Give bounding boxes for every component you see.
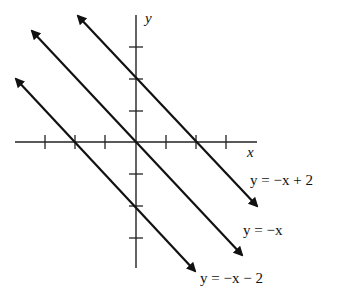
y-axis-label: y bbox=[145, 10, 152, 27]
graph-canvas bbox=[0, 0, 353, 296]
x-axis-label: x bbox=[247, 144, 254, 161]
line-y-neg-x bbox=[32, 31, 242, 255]
label-line-2: y = −x bbox=[243, 222, 282, 239]
label-line-1: y = −x + 2 bbox=[250, 172, 313, 189]
line-y-neg-x-plus-2 bbox=[78, 16, 257, 206]
label-line-3: y = −x − 2 bbox=[200, 270, 263, 287]
